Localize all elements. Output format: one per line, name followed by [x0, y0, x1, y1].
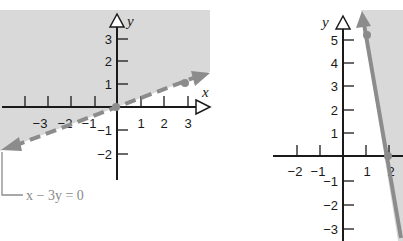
left-y-tick-label: −1	[97, 123, 112, 138]
left-y-axis-label: y	[125, 13, 134, 29]
left-point-origin	[112, 103, 120, 111]
right-y-axis-label: y	[320, 14, 329, 30]
right-y-tick-label: 2	[331, 103, 338, 118]
left-x-tick-label: 3	[184, 116, 191, 131]
right-y-tick-label: −2	[323, 198, 338, 213]
right-y-tick-label: 4	[331, 56, 338, 71]
left-y-tick-label: 3	[105, 32, 112, 47]
equation-callout-line	[2, 152, 23, 195]
left-x-axis-label: x	[201, 84, 209, 100]
right-y-axis-arrow-icon	[336, 16, 350, 29]
equation-label: x − 3y = 0	[26, 188, 84, 203]
right-x-tick-label: 1	[363, 164, 370, 179]
right-x-tick-label: −2	[288, 164, 303, 179]
right-point-1-5	[363, 31, 371, 39]
figure: −3 −2 −1 1 2 3 3 2 1 −1 −2 y x x − 3y = …	[0, 0, 403, 241]
left-x-axis-arrow-icon	[196, 100, 210, 114]
left-y-tick-label: 2	[105, 54, 112, 69]
right-y-tick-label: 5	[331, 33, 338, 48]
right-y-tick-label: 3	[331, 79, 338, 94]
left-graph: −3 −2 −1 1 2 3 3 2 1 −1 −2 y x x − 3y = …	[0, 10, 210, 203]
right-y-tick-label: −3	[323, 222, 338, 237]
left-y-tick-label: 1	[105, 77, 112, 92]
left-point-3-1	[181, 79, 189, 87]
right-point-2-0	[384, 152, 392, 160]
right-y-tick-label: −1	[323, 174, 338, 189]
right-graph: −2 −1 1 2 5 4 3 2 1 −1 −2 −3 y	[273, 10, 403, 241]
left-x-tick-label: 2	[160, 116, 167, 131]
left-x-tick-label: 1	[137, 116, 144, 131]
right-y-tick-label: 1	[331, 126, 338, 141]
left-y-tick-label: −2	[97, 147, 112, 162]
right-y-ticks	[343, 40, 354, 229]
left-x-tick-label: −3	[33, 116, 48, 131]
